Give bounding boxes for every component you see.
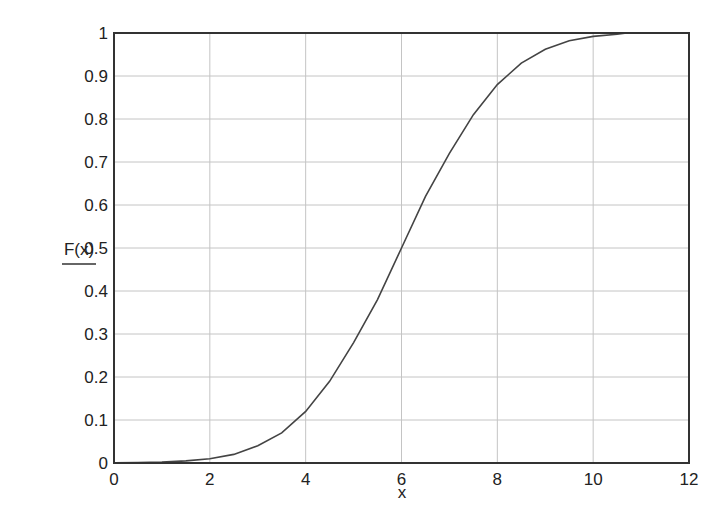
y-tick-label: 0.4 <box>84 282 108 301</box>
x-tick-label: 2 <box>205 470 214 489</box>
x-tick-label: 12 <box>680 470 699 489</box>
y-tick-label: 0.2 <box>84 368 108 387</box>
cdf-chart: 024681012 00.10.20.30.40.50.60.70.80.91 … <box>0 0 720 530</box>
y-axis-label: F(x) <box>64 240 94 259</box>
y-tick-label: 0.7 <box>84 153 108 172</box>
y-tick-label: 0.8 <box>84 110 108 129</box>
y-tick-label: 0.3 <box>84 325 108 344</box>
y-tick-label: 0.6 <box>84 196 108 215</box>
y-tick-label: 0.9 <box>84 67 108 86</box>
x-tick-label: 8 <box>493 470 502 489</box>
y-tick-label: 0.1 <box>84 411 108 430</box>
y-tick-label: 1 <box>99 24 108 43</box>
x-tick-label: 4 <box>301 470 310 489</box>
x-tick-label: 10 <box>584 470 603 489</box>
x-tick-label: 0 <box>109 470 118 489</box>
y-tick-label: 0 <box>99 454 108 473</box>
x-axis-label: x <box>398 483 407 502</box>
